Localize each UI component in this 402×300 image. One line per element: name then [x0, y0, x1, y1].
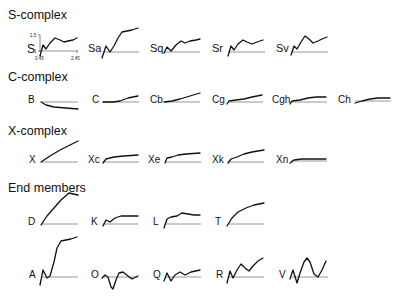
spectrum-plot-v: [0, 0, 402, 300]
